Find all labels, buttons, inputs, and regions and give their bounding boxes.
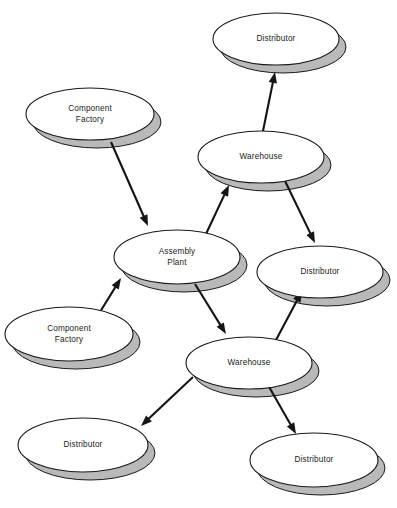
edge-cf-lower-to-assembly [100, 278, 121, 312]
diagram-canvas: DistributorComponentFactoryWarehouseAsse… [0, 0, 397, 508]
edge-assembly-to-warehouse-upper [206, 185, 229, 234]
arrowhead [287, 422, 296, 434]
edge-assembly-to-warehouse-lower [195, 284, 226, 334]
node-layer: DistributorComponentFactoryWarehouseAsse… [5, 13, 383, 487]
arrowhead [221, 185, 229, 197]
node-distributor-bottom-right[interactable]: Distributor [250, 433, 378, 487]
node-component-factory-lower[interactable]: ComponentFactory [5, 307, 133, 361]
node-distributor-top[interactable]: Distributor [213, 13, 339, 65]
node-distributor-bottom-left[interactable]: Distributor [18, 418, 148, 472]
node-assembly-plant[interactable]: AssemblyPlant [114, 230, 240, 284]
edge-warehouse-lower-to-distributor-bottom-left [141, 377, 193, 426]
arrowhead [112, 278, 121, 290]
arrowhead [269, 72, 277, 84]
node-warehouse-upper[interactable]: Warehouse [198, 131, 324, 183]
network-diagram: DistributorComponentFactoryWarehouseAsse… [0, 0, 397, 508]
arrowhead [217, 322, 226, 334]
node-distributor-right[interactable]: Distributor [257, 246, 383, 298]
arrowhead [140, 214, 148, 226]
node-warehouse-lower[interactable]: Warehouse [186, 337, 312, 389]
edge-warehouse-upper-to-distributor-right [285, 181, 315, 243]
edge-cf-upper-to-assembly [111, 142, 148, 226]
edge-warehouse-upper-to-distributor-top [263, 72, 277, 131]
arrowhead [306, 231, 315, 243]
node-component-factory-upper[interactable]: ComponentFactory [26, 88, 154, 140]
